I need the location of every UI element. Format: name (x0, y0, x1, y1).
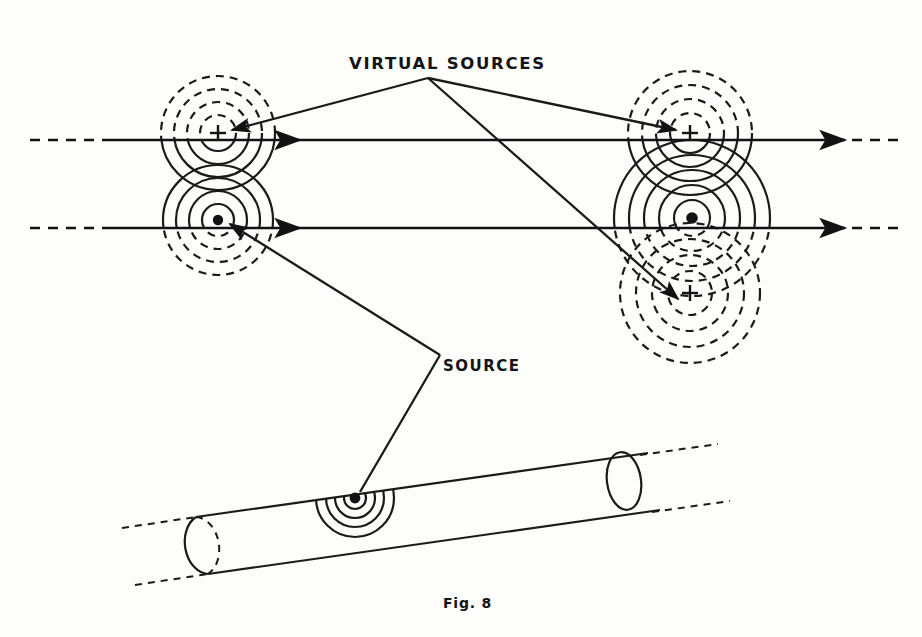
real-source-marker-left (213, 215, 223, 225)
virtual-source-marker-right-lower (682, 285, 698, 301)
virtual-source-marker-left-upper (210, 125, 226, 141)
label-source: SOURCE (443, 357, 521, 375)
real-source-marker-right (686, 212, 698, 224)
label-virtual-sources: VIRTUAL SOURCES (349, 54, 546, 73)
figure-container: VIRTUAL SOURCES SOURCE Fig. 8 (0, 0, 922, 637)
virtual-source-marker-right-upper (682, 125, 698, 141)
figure-caption: Fig. 8 (443, 595, 492, 611)
duct-source-marker (350, 493, 361, 504)
leader-lines-source (230, 224, 440, 492)
figure-drawing (0, 0, 922, 637)
duct-cylinder (122, 444, 730, 585)
